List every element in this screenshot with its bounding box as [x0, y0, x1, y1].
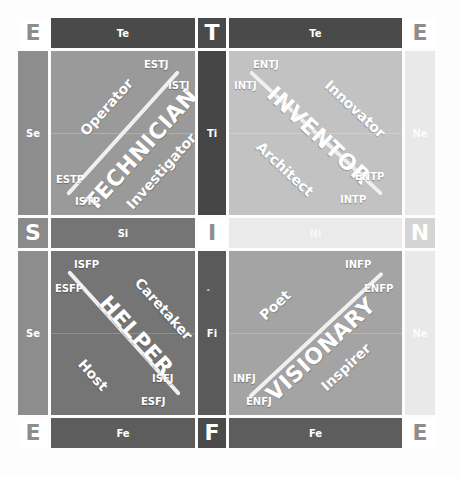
type-ISFJ[interactable]: ISFJ: [152, 373, 173, 384]
type-ENTJ[interactable]: ENTJ: [253, 59, 279, 70]
corner-top-left-E: E: [18, 18, 48, 48]
band-top-right-Te: Te: [229, 18, 402, 48]
band-left-upper-Se: Se: [18, 51, 48, 215]
corner-top-right-E: E: [405, 18, 435, 48]
type-ESFP[interactable]: ESFP: [55, 283, 83, 294]
inventor-role-architect: Architect: [253, 139, 317, 200]
band-top-left-Te: Te: [51, 18, 195, 48]
corner-mid-right-N: N: [405, 218, 435, 248]
band-left-lower-Se: Se: [18, 251, 48, 415]
corner-bottom-right-E: E: [405, 418, 435, 448]
type-ENTP[interactable]: ENTP: [355, 171, 384, 182]
band-mid-left-Si: Si: [51, 218, 195, 248]
corner-center-I: I: [198, 218, 226, 248]
type-INFJ[interactable]: INFJ: [233, 373, 256, 384]
corner-top-center-T: T: [198, 18, 226, 48]
quadrant-helper[interactable]: HELPER Caretaker Host ISFP ESFP ISFJ ESF…: [51, 251, 195, 415]
band-right-lower-Ne: Ne: [405, 251, 435, 415]
band-mid-right-Ni: Ni: [229, 218, 402, 248]
type-INTJ[interactable]: INTJ: [234, 80, 257, 91]
type-ENFJ[interactable]: ENFJ: [246, 396, 272, 407]
visionary-role-poet: Poet: [256, 287, 293, 323]
band-center-upper-Ti: Ti: [198, 51, 226, 215]
band-bottom-right-Fe: Fe: [229, 418, 402, 448]
band-right-upper-Ne: Ne: [405, 51, 435, 215]
type-ESTP[interactable]: ESTP: [56, 174, 84, 185]
corner-mid-left-S: S: [18, 218, 48, 248]
type-ISTJ[interactable]: ISTJ: [168, 80, 189, 91]
mbti-grid-diagram: E Te T Te E Se Ti Ne TECHNICIAN Operator…: [0, 0, 459, 478]
type-ESTJ[interactable]: ESTJ: [144, 59, 169, 70]
center-lower-tick-mark: ˄: [206, 288, 211, 298]
type-ISTP[interactable]: ISTP: [75, 196, 100, 207]
corner-bottom-left-E: E: [18, 418, 48, 448]
helper-role-host: Host: [75, 356, 111, 394]
type-INTP[interactable]: INTP: [340, 194, 366, 205]
quadrant-technician[interactable]: TECHNICIAN Operator Investigator ESTJ IS…: [51, 51, 195, 215]
band-bottom-left-Fe: Fe: [51, 418, 195, 448]
type-ESFJ[interactable]: ESFJ: [141, 396, 166, 407]
corner-bottom-center-F: F: [198, 418, 226, 448]
band-center-lower-Fi: Fi: [198, 251, 226, 415]
type-INFP[interactable]: INFP: [345, 259, 371, 270]
quadrant-inventor[interactable]: INVENTOR Innovator Architect ENTJ INTJ E…: [229, 51, 402, 215]
type-ISFP[interactable]: ISFP: [74, 259, 99, 270]
quadrant-visionary[interactable]: VISIONARY Poet Inspirer INFP ENFP INFJ E…: [229, 251, 402, 415]
type-ENFP[interactable]: ENFP: [364, 283, 393, 294]
